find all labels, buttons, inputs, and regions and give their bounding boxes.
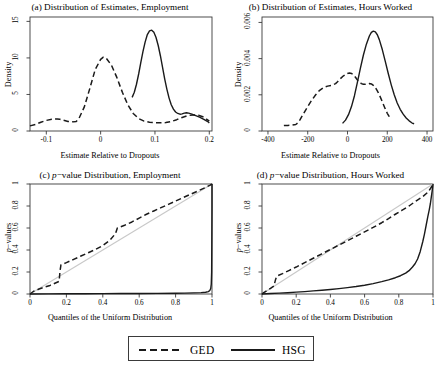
- panel-d-xlabel: Quantiles of the Uniform Distribution: [220, 313, 441, 322]
- panel-a-series-hsg: [132, 30, 209, 123]
- panel-d: (d) p−value Distribution, Hours Worked Q…: [220, 170, 441, 330]
- panel-c-xlabel: Quantiles of the Uniform Distribution: [0, 313, 220, 322]
- legend-swatch-solid: [230, 344, 276, 356]
- panel-c-title: (c) p−value Distribution, Employment: [0, 170, 220, 181]
- panel-b-series-hsg: [343, 31, 415, 124]
- panel-a-ytick: 15: [12, 3, 20, 37]
- panel-b-ytick: 0: [244, 113, 252, 147]
- figure-legend: GED HSG: [128, 336, 314, 361]
- panel-d-ylabel-rest: −values: [234, 223, 243, 249]
- panel-d-xtick: 1: [408, 299, 441, 307]
- panel-a-title: (a) Distribution of Estimates, Employmen…: [0, 2, 220, 13]
- panel-c-ytick: 1: [12, 166, 20, 200]
- panel-b-series-ged: [284, 73, 390, 125]
- panel-a-xtick: 0: [76, 136, 126, 144]
- panel-a-ytick: 0: [12, 113, 20, 147]
- legend-swatch-dashed: [138, 344, 184, 356]
- panel-d-title: (d) p−value Distribution, Hours Worked: [220, 170, 441, 181]
- panel-d-ytick: 1: [244, 166, 252, 200]
- panel-b-title: (b) Distribution of Estimates, Hours Wor…: [220, 2, 441, 13]
- panel-a-xtick: 0.1: [130, 136, 180, 144]
- panel-b-ylabel: Density: [234, 52, 243, 98]
- figure-panel-grid: (a) Distribution of Estimates, Employmen…: [0, 0, 441, 368]
- panel-b-ytick: 0.006: [244, 4, 252, 38]
- panel-d-ylabel: p−values: [234, 215, 243, 261]
- panel-b: (b) Distribution of Estimates, Hours Wor…: [220, 0, 441, 170]
- panel-a: (a) Distribution of Estimates, Employmen…: [0, 0, 220, 170]
- panel-a-ytick: 5: [12, 76, 20, 110]
- panel-b-plot: [220, 0, 441, 170]
- panel-a-xtick: -0.1: [21, 136, 71, 144]
- panel-c-title-rest: −value Distribution, Employment: [57, 170, 181, 180]
- panel-b-xlabel: Estimate Relative to Dropouts: [220, 151, 441, 160]
- panel-a-series-ged: [30, 57, 209, 126]
- panel-b-ytick: 0.004: [244, 41, 252, 75]
- panel-c: (c) p−value Distribution, Employment Qua…: [0, 170, 220, 330]
- panel-d-title-prefix: (d): [257, 170, 270, 180]
- panel-a-plot: [0, 0, 220, 170]
- panel-a-ytick: 10: [12, 40, 20, 74]
- panel-b-ytick: 0.002: [244, 77, 252, 111]
- panel-c-title-prefix: (c): [40, 170, 53, 180]
- panel-b-xtick: 400: [402, 136, 441, 144]
- legend-label-ged: GED: [190, 344, 215, 356]
- panel-a-xlabel: Estimate Relative to Dropouts: [0, 151, 220, 160]
- legend-label-hsg: HSG: [282, 344, 306, 356]
- legend-entry-ged: GED: [138, 337, 215, 362]
- legend-entry-hsg: HSG: [230, 337, 306, 362]
- panel-d-title-rest: −value Distribution, Hours Worked: [274, 170, 404, 180]
- panel-d-ylabel-p: p: [234, 248, 243, 252]
